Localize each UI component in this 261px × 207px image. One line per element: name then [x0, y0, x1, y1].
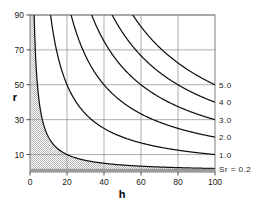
x-tick-labels: 020406080100 — [28, 177, 223, 187]
x-tick-label: 20 — [62, 177, 72, 187]
y-tick-label: 70 — [15, 45, 25, 55]
x-tick-label: 60 — [136, 177, 146, 187]
curve-lines — [30, 15, 215, 172]
curve-0 — [34, 15, 215, 169]
curve-2 — [71, 15, 215, 137]
baseline-band — [30, 169, 215, 172]
curve-label-4: 4 0 — [219, 98, 232, 107]
curve-label-5: 5.0 — [219, 81, 232, 90]
y-tick-label: 30 — [15, 115, 25, 125]
y-tick-labels: 1030507090 — [15, 10, 25, 160]
x-tick-label: 80 — [173, 177, 183, 187]
curve-label-1: 1.0 — [219, 151, 232, 160]
curve-labels: Sr = 0.21.02.03.04 05.0 — [219, 81, 251, 174]
chart-container: 020406080100 1030507090 Sr = 0.21.02.03.… — [0, 0, 261, 207]
x-tick-label: 100 — [208, 177, 222, 187]
y-tick-label: 90 — [15, 10, 25, 20]
curve-label-0: Sr = 0.2 — [219, 165, 251, 174]
y-tick-label: 50 — [15, 80, 25, 90]
x-axis-title: h — [119, 188, 126, 200]
curve-label-2: 2.0 — [219, 133, 232, 142]
curve-4 — [112, 15, 215, 102]
y-tick-label: 10 — [15, 150, 25, 160]
hyperbola-chart: 020406080100 1030507090 Sr = 0.21.02.03.… — [0, 0, 261, 207]
x-tick-label: 40 — [99, 177, 109, 187]
y-axis-title: r — [13, 91, 18, 103]
curve-label-3: 3.0 — [219, 116, 232, 125]
x-tick-label: 0 — [28, 177, 33, 187]
